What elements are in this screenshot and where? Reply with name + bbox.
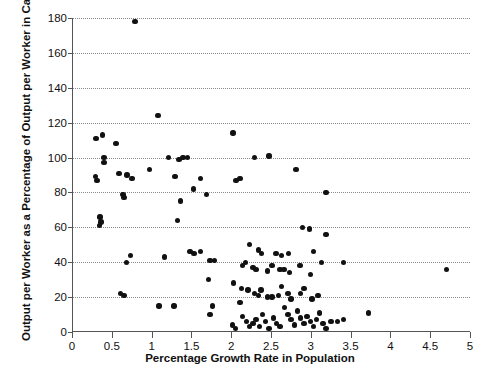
data-point — [444, 267, 449, 272]
x-tick-label-4: 4 — [387, 340, 393, 352]
data-point — [237, 176, 242, 181]
x-tick-mark-4 — [390, 332, 391, 338]
y-tick-label-40: 40 — [37, 256, 67, 268]
x-tick-label-3: 3 — [308, 340, 314, 352]
data-point — [317, 310, 322, 315]
data-point — [206, 277, 211, 282]
data-point — [93, 136, 98, 141]
data-point — [156, 303, 161, 308]
data-point — [204, 192, 209, 197]
data-point — [282, 305, 287, 310]
data-point — [124, 260, 129, 265]
y-tick-label-60: 60 — [37, 221, 67, 233]
data-point — [243, 260, 248, 265]
x-tick-mark-3 — [311, 332, 312, 338]
data-point — [129, 176, 134, 181]
data-point — [210, 303, 215, 308]
data-point — [315, 293, 320, 298]
data-point — [366, 310, 371, 315]
data-point — [266, 153, 271, 158]
data-point — [132, 19, 137, 24]
data-point — [292, 322, 297, 327]
data-point — [308, 272, 313, 277]
x-tick-label-2.5: 2.5 — [263, 340, 279, 352]
data-point — [178, 198, 183, 203]
data-point — [288, 296, 293, 301]
y-tick-label-80: 80 — [37, 186, 67, 198]
data-point — [230, 130, 235, 135]
data-point — [269, 263, 274, 268]
data-point — [245, 287, 250, 292]
y-tick-mark-60 — [68, 227, 73, 228]
y-tick-label-100: 100 — [37, 152, 67, 164]
x-tick-mark-0 — [72, 332, 73, 338]
data-point — [247, 242, 252, 247]
data-point — [263, 319, 268, 324]
data-point — [311, 249, 316, 254]
y-tick-mark-140 — [68, 88, 73, 89]
scatter-plot-figure: 020406080100120140160180 00.511.522.533.… — [0, 0, 500, 382]
x-tick-mark-1 — [152, 332, 153, 338]
x-tick-label-5: 5 — [467, 340, 473, 352]
plot-area: 020406080100120140160180 — [72, 18, 470, 332]
data-point — [94, 178, 99, 183]
data-point — [100, 132, 105, 137]
x-tick-mark-2 — [231, 332, 232, 338]
data-point — [323, 232, 328, 237]
x-tick-mark-2.5 — [271, 332, 272, 338]
data-point — [265, 268, 270, 273]
data-point — [162, 254, 167, 259]
y-tick-mark-160 — [68, 53, 73, 54]
x-tick-label-1: 1 — [148, 340, 154, 352]
data-point — [300, 225, 305, 230]
data-point — [277, 324, 282, 329]
x-tick-mark-4.5 — [430, 332, 431, 338]
data-point — [207, 312, 212, 317]
data-point — [198, 249, 203, 254]
data-point — [286, 251, 291, 256]
data-point — [319, 260, 324, 265]
y-tick-label-20: 20 — [37, 291, 67, 303]
data-point — [147, 167, 152, 172]
x-tick-mark-1.5 — [191, 332, 192, 338]
y-tick-label-120: 120 — [37, 117, 67, 129]
data-point — [298, 291, 303, 296]
y-tick-label-180: 180 — [37, 12, 67, 24]
gridline-y-120 — [73, 123, 470, 124]
data-point — [298, 315, 303, 320]
data-point — [260, 312, 265, 317]
data-point — [191, 186, 196, 191]
data-point — [166, 155, 171, 160]
data-point — [113, 141, 118, 146]
data-point — [335, 319, 340, 324]
data-point — [301, 321, 306, 326]
data-point — [279, 284, 284, 289]
gridline-y-160 — [73, 53, 470, 54]
data-point — [307, 226, 312, 231]
data-point — [276, 293, 281, 298]
x-tick-label-3.5: 3.5 — [343, 340, 359, 352]
data-point — [259, 251, 264, 256]
y-tick-mark-20 — [68, 297, 73, 298]
y-tick-label-140: 140 — [37, 82, 67, 94]
x-tick-label-1.5: 1.5 — [183, 340, 199, 352]
data-point — [323, 190, 328, 195]
data-point — [281, 267, 286, 272]
data-point — [231, 280, 236, 285]
data-point — [233, 326, 238, 331]
data-point — [171, 303, 176, 308]
data-point — [172, 174, 177, 179]
data-point — [155, 113, 160, 118]
data-point — [237, 300, 242, 305]
y-tick-mark-120 — [68, 123, 73, 124]
data-point — [253, 267, 258, 272]
data-point — [323, 326, 328, 331]
data-point — [101, 160, 106, 165]
data-point — [269, 294, 274, 299]
data-point — [175, 218, 180, 223]
data-point — [273, 251, 278, 256]
data-point — [128, 253, 133, 258]
y-axis-label: Output per Worker as a Percentage of Out… — [20, 21, 32, 341]
y-tick-mark-180 — [68, 18, 73, 19]
data-point — [252, 155, 257, 160]
